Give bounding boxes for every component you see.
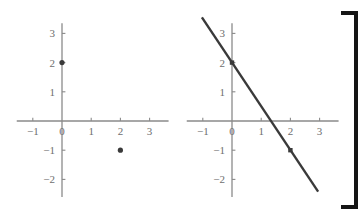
y-tick-label: −1 xyxy=(43,144,55,156)
x-tick-label: 2 xyxy=(118,125,124,137)
x-tick-label: 1 xyxy=(258,125,264,137)
x-tick-label: −1 xyxy=(197,125,209,137)
x-tick-label: 3 xyxy=(147,125,153,137)
x-tick-label: 2 xyxy=(288,125,294,137)
data-point xyxy=(288,148,292,152)
plot-line: −10123321−1−2 xyxy=(187,17,339,197)
x-tick-label: 1 xyxy=(88,125,94,137)
y-tick-label: −2 xyxy=(43,173,55,185)
x-tick-label: 0 xyxy=(229,125,235,137)
y-tick-label: 2 xyxy=(220,57,226,69)
figure-root: −10123321−1−2−10123321−1−2 xyxy=(0,0,363,218)
y-tick-label: 3 xyxy=(50,27,56,39)
data-point xyxy=(59,60,64,65)
y-tick-label: 1 xyxy=(220,86,226,98)
data-point xyxy=(230,60,234,64)
bracket-stroke xyxy=(341,13,356,207)
x-tick-label: −1 xyxy=(27,125,39,137)
data-point xyxy=(118,148,123,153)
y-tick-label: 2 xyxy=(50,57,56,69)
y-tick-label: −1 xyxy=(213,144,225,156)
y-tick-label: 3 xyxy=(220,27,226,39)
plot-scatter: −10123321−1−2 xyxy=(17,23,169,197)
data-line xyxy=(202,17,318,191)
x-tick-label: 3 xyxy=(317,125,323,137)
y-tick-label: 1 xyxy=(50,86,56,98)
x-tick-label: 0 xyxy=(59,125,65,137)
y-tick-label: −2 xyxy=(213,173,225,185)
right-square-bracket xyxy=(341,13,356,207)
coordinate-plane-figure: −10123321−1−2−10123321−1−2 xyxy=(0,0,363,218)
